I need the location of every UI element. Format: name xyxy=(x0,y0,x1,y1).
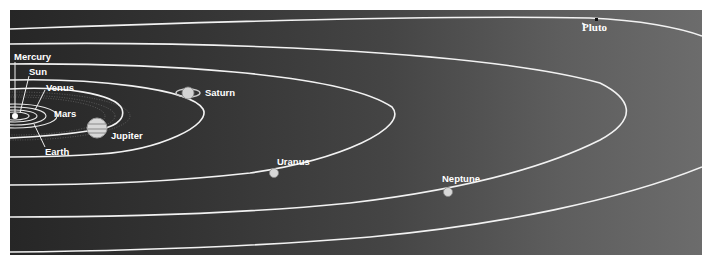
neptune-planet xyxy=(444,188,453,197)
saturn-planet xyxy=(176,87,200,99)
sun xyxy=(12,113,18,119)
label-uranus: Uranus xyxy=(277,156,310,167)
label-saturn: Saturn xyxy=(205,87,235,98)
label-mercury: Mercury xyxy=(14,51,52,62)
label-sun: Sun xyxy=(29,66,47,77)
label-earth: Earth xyxy=(45,146,69,157)
jupiter-planet xyxy=(87,118,107,138)
orbit-diagram: Mercury Sun Venus Mars Earth Jupiter Sat… xyxy=(10,10,702,255)
uranus-planet xyxy=(270,169,279,178)
label-venus: Venus xyxy=(46,82,74,93)
label-pluto: Pluto xyxy=(582,21,608,33)
orbit-pluto-lower xyxy=(10,167,702,252)
label-neptune: Neptune xyxy=(442,173,480,184)
solar-system-diagram: Mercury Sun Venus Mars Earth Jupiter Sat… xyxy=(10,10,702,255)
label-mars: Mars xyxy=(54,108,76,119)
orbit-saturn xyxy=(10,80,204,157)
label-jupiter: Jupiter xyxy=(111,130,143,141)
